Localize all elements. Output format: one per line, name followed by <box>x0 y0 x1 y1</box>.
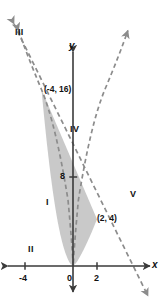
x-axis-label: x <box>152 260 158 270</box>
region-label-II: II <box>28 245 34 254</box>
graph-figure: x y -4 2 0 8 (-4, 16) (2, 4) I II III IV… <box>0 0 165 301</box>
origin-label: 0 <box>67 274 72 283</box>
coordinate-plot <box>0 0 165 301</box>
region-label-I: I <box>46 198 49 207</box>
shaded-region-I <box>42 90 98 266</box>
y-axis-label: y <box>69 41 75 51</box>
y-tick-label-8: 8 <box>60 172 65 181</box>
line-curve <box>14 24 148 296</box>
region-label-IV: IV <box>70 125 79 134</box>
x-tick-label--4: -4 <box>19 274 27 283</box>
region-label-V: V <box>130 190 136 199</box>
x-tick-label-2: 2 <box>94 274 99 283</box>
point-label-minus4-16: (-4, 16) <box>44 85 71 94</box>
region-label-III: III <box>15 28 24 37</box>
x-axis <box>8 262 150 270</box>
point-label-2-4: (2, 4) <box>97 214 117 223</box>
